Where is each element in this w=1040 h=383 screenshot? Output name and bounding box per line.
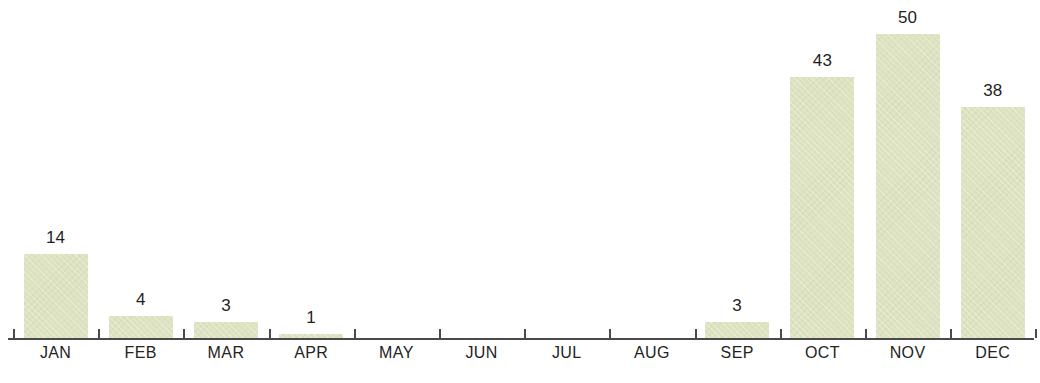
bar-jul[interactable] — [535, 0, 599, 340]
bar-rect-nov[interactable] — [876, 34, 940, 340]
bar-mar[interactable]: 3 — [194, 0, 258, 340]
x-axis-label-feb: FEB — [98, 344, 183, 362]
bar-value-feb: 4 — [109, 290, 173, 310]
x-axis-line — [8, 338, 1034, 340]
x-axis-tick — [780, 329, 782, 338]
bar-aug[interactable] — [620, 0, 684, 340]
x-axis-tick — [950, 329, 952, 338]
bar-value-jan: 14 — [24, 228, 88, 248]
x-axis-label-apr: APR — [269, 344, 354, 362]
bar-rect-jan[interactable] — [24, 254, 88, 340]
x-axis-label-may: MAY — [354, 344, 439, 362]
x-axis-tick — [13, 329, 15, 338]
x-axis-label-jul: JUL — [524, 344, 609, 362]
bar-apr[interactable]: 1 — [279, 0, 343, 340]
x-axis-label-aug: AUG — [609, 344, 694, 362]
x-axis-tick — [524, 329, 526, 338]
x-axis-label-mar: MAR — [183, 344, 268, 362]
x-axis-labels: JANFEBMARAPRMAYJUNJULAUGSEPOCTNOVDEC — [0, 344, 1040, 383]
bar-sep[interactable]: 3 — [705, 0, 769, 340]
x-axis-label-oct: OCT — [780, 344, 865, 362]
x-axis-label-sep: SEP — [695, 344, 780, 362]
bar-rect-oct[interactable] — [790, 77, 854, 340]
plot-area: 144313435038 — [0, 0, 1040, 340]
bar-value-sep: 3 — [705, 296, 769, 316]
bar-value-mar: 3 — [194, 296, 258, 316]
bar-feb[interactable]: 4 — [109, 0, 173, 340]
x-axis-tick — [439, 329, 441, 338]
x-axis-tick — [354, 329, 356, 338]
x-axis-tick — [98, 329, 100, 338]
x-axis-tick — [183, 329, 185, 338]
bar-chart: 144313435038 JANFEBMARAPRMAYJUNJULAUGSEP… — [0, 0, 1040, 383]
x-axis-tick — [269, 329, 271, 338]
bar-oct[interactable]: 43 — [790, 0, 854, 340]
x-axis-label-nov: NOV — [865, 344, 950, 362]
bar-value-dec: 38 — [961, 81, 1025, 101]
x-axis-label-dec: DEC — [950, 344, 1035, 362]
bar-value-apr: 1 — [279, 308, 343, 328]
bar-dec[interactable]: 38 — [961, 0, 1025, 340]
bar-jan[interactable]: 14 — [24, 0, 88, 340]
x-axis-tick — [609, 329, 611, 338]
bar-value-nov: 50 — [876, 8, 940, 28]
x-axis-tick — [695, 329, 697, 338]
bar-value-oct: 43 — [790, 51, 854, 71]
bar-rect-dec[interactable] — [961, 107, 1025, 340]
bar-may[interactable] — [364, 0, 428, 340]
bar-rect-feb[interactable] — [109, 316, 173, 340]
x-axis-label-jan: JAN — [13, 344, 98, 362]
bar-jun[interactable] — [450, 0, 514, 340]
bar-nov[interactable]: 50 — [876, 0, 940, 340]
x-axis-label-jun: JUN — [439, 344, 524, 362]
x-axis-tick — [865, 329, 867, 338]
x-axis-tick — [1035, 329, 1037, 338]
